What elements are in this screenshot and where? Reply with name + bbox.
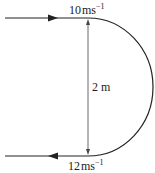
- diagram: 10 ms−1 2 m 12 ms−1: [0, 0, 155, 173]
- bottom-velocity-label: 12 ms−1: [68, 159, 104, 172]
- diameter-label: 2 m: [92, 81, 110, 93]
- top-velocity-label: 10 ms−1: [69, 3, 105, 16]
- arrow-right-icon: [48, 15, 58, 22]
- arrow-left-icon: [48, 153, 58, 160]
- arrow-up-icon: [86, 19, 90, 25]
- arrow-down-icon: [86, 149, 90, 155]
- path-drawing: [0, 0, 155, 173]
